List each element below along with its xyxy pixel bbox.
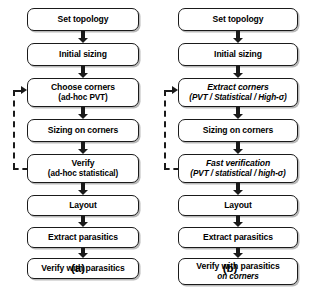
box-b-5: Fast verification (PVT / statistical / h… <box>178 154 298 183</box>
connector-b-6-7 <box>233 216 243 227</box>
feedback-segment-v <box>13 90 15 169</box>
box-a-1-line1: Set topology <box>58 15 109 25</box>
connector-a-5-6 <box>78 183 88 195</box>
connector-b-5-6 <box>233 183 243 195</box>
box-b-1: Set topology <box>178 8 298 31</box>
connector-a-3-4 <box>78 107 88 119</box>
caption-b: (b) <box>152 262 308 274</box>
caption-a: (a) <box>0 262 156 274</box>
feedback-arrow-head-icon <box>172 86 178 94</box>
connector-a-7-8 <box>78 248 88 258</box>
connector-b-3-4 <box>233 107 243 119</box>
box-a-2: Initial sizing <box>27 43 139 66</box>
box-a-7-line1: Extract parasitics <box>48 233 118 243</box>
flowchart-diagram: Set topology Initial sizing Choose corne… <box>0 0 312 293</box>
box-b-4-line1: Sizing on corners <box>203 126 273 136</box>
flow-column-a: Set topology Initial sizing Choose corne… <box>0 0 156 293</box>
box-b-3-line2: (PVT / Statistical / High-σ) <box>189 93 286 102</box>
box-a-6: Layout <box>27 195 139 216</box>
box-a-2-line1: Initial sizing <box>59 50 107 60</box>
connector-b-4-5 <box>233 142 243 154</box>
box-a-3-line2: (ad-hoc PVT) <box>58 93 107 102</box>
box-a-1: Set topology <box>27 8 139 31</box>
box-b-2-line1: Initial sizing <box>214 50 262 60</box>
flow-column-b: Set topology Initial sizing Extract corn… <box>156 0 312 293</box>
box-b-1-line1: Set topology <box>213 15 264 25</box>
box-a-4-line1: Sizing on corners <box>48 126 118 136</box>
connector-a-2-3 <box>78 66 88 78</box>
connector-a-4-5 <box>78 142 88 154</box>
feedback-segment-h-bottom <box>13 168 28 170</box>
box-b-3: Extract corners (PVT / Statistical / Hig… <box>178 78 298 107</box>
box-b-5-line2: (PVT / statistical / high-σ) <box>190 169 285 178</box>
box-a-5-line1: Verify <box>72 159 95 169</box>
connector-a-1-2 <box>78 31 88 43</box>
box-a-3: Choose corners (ad-hoc PVT) <box>27 78 139 107</box>
box-b-5-line1: Fast verification <box>206 159 270 169</box>
box-b-7: Extract parasitics <box>178 227 298 248</box>
box-b-3-line1: Extract corners <box>207 83 269 93</box>
box-a-7: Extract parasitics <box>27 227 139 248</box>
box-b-6-line1: Layout <box>224 201 252 211</box>
box-b-6: Layout <box>178 195 298 216</box>
box-a-3-line1: Choose corners <box>51 83 115 93</box>
box-b-2: Initial sizing <box>178 43 298 66</box>
connector-b-7-8 <box>233 248 243 258</box>
box-b-4: Sizing on corners <box>178 119 298 142</box>
box-b-7-line1: Extract parasitics <box>203 233 273 243</box>
connector-a-6-7 <box>78 216 88 227</box>
box-a-5-line2: (ad-hoc statistical) <box>48 169 118 178</box>
feedback-segment-v <box>164 90 166 169</box>
feedback-segment-h-bottom <box>164 168 179 170</box>
box-a-5: Verify (ad-hoc statistical) <box>27 154 139 183</box>
box-a-4: Sizing on corners <box>27 119 139 142</box>
box-a-6-line1: Layout <box>69 201 97 211</box>
connector-b-1-2 <box>233 31 243 43</box>
feedback-arrow-head-icon <box>21 86 27 94</box>
connector-b-2-3 <box>233 66 243 78</box>
